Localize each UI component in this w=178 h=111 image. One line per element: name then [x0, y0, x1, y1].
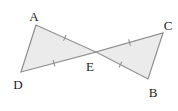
triangle-ade — [21, 25, 96, 72]
vertex-label-a: A — [29, 9, 39, 24]
vertex-label-e: E — [86, 59, 94, 74]
vertex-label-b: B — [149, 85, 158, 100]
vertex-label-c: C — [164, 18, 173, 33]
geometry-diagram: ADECB — [0, 0, 178, 111]
geometry-figure: ADECB — [0, 0, 178, 111]
triangle-cbe — [96, 33, 163, 79]
vertex-label-d: D — [13, 77, 22, 92]
